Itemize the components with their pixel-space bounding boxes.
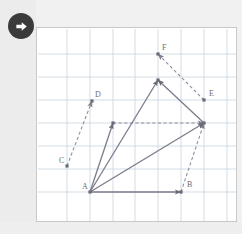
point-label-F: F (162, 43, 167, 52)
point-marker-C[interactable] (65, 164, 68, 167)
next-step-badge[interactable] (8, 13, 34, 39)
point-marker-F[interactable] (156, 52, 159, 55)
point-label-C: C (59, 156, 64, 165)
point-marker-E[interactable] (202, 98, 205, 101)
dashed-vector-C-to-D (67, 101, 92, 166)
point-label-D: D (95, 90, 101, 99)
arrow-right-icon (14, 19, 29, 34)
point-marker-D[interactable] (90, 99, 93, 102)
grid-lines (38, 29, 237, 222)
point-marker-P3[interactable] (202, 121, 205, 124)
point-marker-P1[interactable] (111, 121, 114, 124)
vector-plot: ABCDEF (36, 27, 237, 222)
point-marker-P2[interactable] (156, 78, 159, 81)
solid-vector-A-to-P1 (90, 123, 113, 192)
diagram-root: ABCDEF (0, 0, 242, 234)
diagram-panel-inner: ABCDEF (37, 28, 236, 221)
point-label-E: E (209, 89, 214, 98)
point-marker-A[interactable] (88, 190, 91, 193)
point-label-B: B (187, 180, 192, 189)
point-marker-B[interactable] (179, 190, 182, 193)
point-label-A: A (82, 182, 88, 191)
dashed-vector-B-to-P3 (181, 123, 204, 192)
diagram-panel: ABCDEF (36, 27, 237, 222)
background-band-bottom (0, 222, 242, 234)
